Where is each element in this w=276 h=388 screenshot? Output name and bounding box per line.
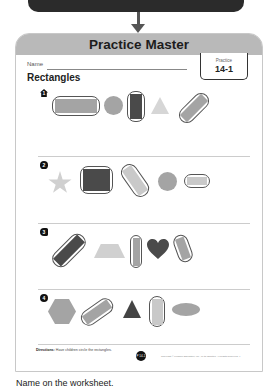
directions-text: Directions: Have children circle the rec… xyxy=(36,348,112,352)
apple-icon: 2 xyxy=(40,161,48,169)
shape-rectangle-circled xyxy=(49,230,89,270)
directions-label: Directions: xyxy=(36,348,55,352)
section-divider xyxy=(38,289,250,290)
shape-triangle xyxy=(123,300,141,318)
practice-label: Practice xyxy=(201,58,247,63)
section-divider xyxy=(38,223,250,224)
worksheet-title: Rectangles xyxy=(27,72,80,83)
heart-icon: 4 xyxy=(40,294,48,302)
shape-rectangle-circled xyxy=(52,96,100,116)
shape-rectangle-circled xyxy=(130,235,142,268)
name-write-line xyxy=(47,69,187,70)
caption-text: Name on the worksheet. xyxy=(16,378,114,388)
section-divider xyxy=(38,156,250,157)
page-badge: P 14-1 xyxy=(136,351,146,361)
shape-circle xyxy=(104,96,123,115)
shape-star xyxy=(48,171,72,195)
shape-hexagon xyxy=(48,299,76,324)
shape-rectangle-circled xyxy=(127,91,145,122)
shape-rectangle-circled xyxy=(78,295,117,329)
practice-number: 14-1 xyxy=(201,64,247,74)
section-divider xyxy=(38,344,250,345)
shape-rectangle-circled xyxy=(149,296,165,327)
card-header-title: Practice Master xyxy=(16,34,262,55)
name-label: Name xyxy=(27,61,43,67)
copyright-text: Copyright © Pearson Education, Inc., or … xyxy=(161,355,240,358)
shape-trapezoid xyxy=(94,244,125,258)
arrow-down-icon xyxy=(131,24,145,33)
shape-triangle xyxy=(151,97,169,114)
shape-heart xyxy=(147,239,169,259)
shape-rectangle-circled xyxy=(80,166,113,194)
shape-rectangle-circled xyxy=(176,90,213,127)
shape-oval xyxy=(172,303,200,316)
fish-icon: 3 xyxy=(40,228,48,236)
shape-circle xyxy=(158,172,177,191)
shape-rectangle-circled xyxy=(171,233,195,264)
practice-master-card: Practice Master Practice 14-1 Name Recta… xyxy=(15,33,263,372)
shape-rectangle-circled xyxy=(118,161,153,200)
top-banner xyxy=(28,0,244,12)
shape-rectangle-circled xyxy=(184,174,210,188)
directions-body: Have children circle the rectangles. xyxy=(56,348,112,352)
house-icon: 1 xyxy=(40,89,48,97)
practice-number-tab: Practice 14-1 xyxy=(200,53,248,80)
